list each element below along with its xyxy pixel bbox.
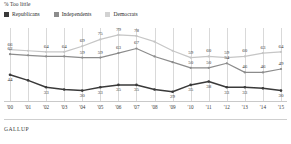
data-point — [226, 62, 228, 64]
data-point-label: 33 — [224, 90, 229, 95]
x-tick-label: '08 — [151, 104, 157, 110]
chart-title: % Too little — [4, 1, 30, 7]
data-point-label: 50 — [188, 60, 193, 65]
legend-swatch-independents — [54, 12, 59, 17]
data-point — [63, 51, 65, 53]
data-point-label: 60 — [206, 48, 211, 53]
x-axis-ticks: '00'01'02'03'04'05'06'07'08'09'10'11'12'… — [4, 104, 287, 114]
series-line-republicans — [10, 75, 281, 92]
data-point — [135, 84, 138, 87]
data-point — [9, 53, 11, 55]
data-point — [9, 73, 12, 76]
legend-item-republicans: Republicans — [4, 11, 40, 17]
data-point — [226, 86, 229, 89]
data-point — [117, 84, 120, 87]
data-point-label: 29 — [170, 94, 175, 99]
x-tick-label: '15 — [278, 104, 284, 110]
data-point — [135, 47, 137, 49]
x-axis-baseline — [4, 101, 287, 102]
data-point-label: 33 — [98, 90, 103, 95]
data-point-label: 35 — [188, 87, 193, 92]
data-point — [262, 71, 264, 73]
data-point-label: 67 — [134, 40, 139, 45]
data-point-label: 59 — [224, 50, 229, 55]
data-point — [190, 57, 192, 59]
data-point-label: 33 — [44, 90, 49, 95]
data-point-label: 59 — [80, 50, 85, 55]
data-point-label: 79 — [116, 27, 121, 32]
data-point-label: 38 — [206, 84, 211, 89]
data-point-label: 30 — [80, 93, 85, 98]
data-point-label: 46 — [260, 64, 265, 69]
data-point-label: 35 — [116, 87, 121, 92]
data-point-label: 59 — [188, 50, 193, 55]
data-point — [208, 55, 210, 57]
data-point-label: 44 — [8, 77, 13, 82]
data-point — [280, 68, 282, 70]
legend-label-independents: Independents — [62, 11, 92, 17]
legend-item-democrats: Democrats — [105, 11, 137, 17]
x-tick-label: '07 — [133, 104, 139, 110]
data-point — [27, 54, 29, 56]
x-tick-label: '00 — [7, 104, 13, 110]
data-point-label: 46 — [242, 64, 247, 69]
data-point-label: 64 — [279, 44, 284, 49]
data-point — [117, 34, 119, 36]
data-point — [45, 51, 47, 53]
x-tick-label: '10 — [188, 104, 194, 110]
data-point-label: 54 — [224, 55, 229, 60]
legend-swatch-democrats — [105, 12, 110, 17]
data-point-label: 50 — [206, 60, 211, 65]
data-point — [244, 86, 247, 89]
data-point-label: 63 — [116, 45, 121, 50]
data-point — [172, 50, 174, 52]
data-point — [63, 55, 65, 57]
data-point-label: 63 — [260, 45, 265, 50]
data-point — [207, 80, 210, 83]
data-point — [153, 41, 155, 43]
data-point — [190, 67, 192, 69]
data-point-label: 33 — [242, 90, 247, 95]
x-tick-label: '06 — [115, 104, 121, 110]
data-point-label: 64 — [44, 44, 49, 49]
data-point-label: 64 — [62, 44, 67, 49]
x-tick-label: '12 — [224, 104, 230, 110]
data-point — [63, 88, 66, 91]
x-tick-label: '05 — [97, 104, 103, 110]
data-point — [99, 57, 101, 59]
data-point — [244, 71, 246, 73]
data-point — [189, 84, 192, 87]
data-point — [135, 35, 137, 37]
data-point — [117, 52, 119, 54]
x-tick-label: '03 — [61, 104, 67, 110]
gallup-brand: GALLUP — [4, 126, 29, 132]
data-point — [153, 88, 156, 91]
x-tick-label: '13 — [242, 104, 248, 110]
data-point — [244, 55, 246, 57]
x-tick-label: '01 — [25, 104, 31, 110]
x-tick-label: '14 — [260, 104, 266, 110]
plot-area: 4433303335352935383333306259596367505054… — [4, 28, 287, 102]
data-point — [262, 87, 265, 90]
data-point — [81, 45, 83, 47]
legend-label-republicans: Republicans — [12, 11, 40, 17]
data-point — [45, 55, 47, 57]
chart-container: % Too little Republicans Independents De… — [0, 0, 291, 144]
data-point — [172, 61, 174, 63]
x-tick-label: '11 — [206, 104, 212, 110]
data-point — [153, 55, 155, 57]
series-line-democrats — [10, 35, 281, 58]
data-point-label: 59 — [98, 50, 103, 55]
data-point — [280, 51, 282, 53]
data-point — [208, 67, 210, 69]
data-point-label: 69 — [80, 38, 85, 43]
data-point — [171, 90, 174, 93]
chart-legend: Republicans Independents Democrats — [4, 11, 152, 17]
legend-swatch-republicans — [4, 12, 9, 17]
data-point — [27, 79, 30, 82]
data-point-label: 60 — [242, 48, 247, 53]
data-point-label: 35 — [134, 87, 139, 92]
data-point — [81, 57, 83, 59]
data-point-label: 78 — [134, 28, 139, 33]
data-point-label: 30 — [279, 93, 284, 98]
